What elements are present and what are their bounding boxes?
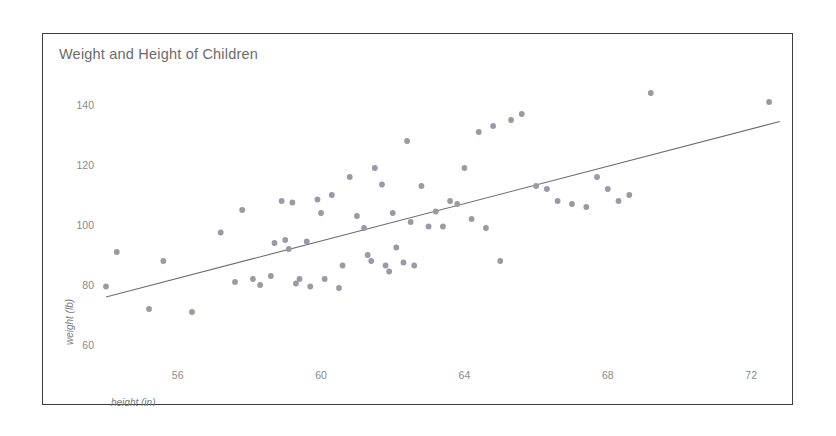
- data-point: [146, 306, 152, 312]
- data-point: [361, 225, 367, 231]
- y-tick-label: 100: [76, 219, 94, 231]
- x-axis-ticks: 5660646872: [172, 369, 757, 381]
- data-point: [555, 198, 561, 204]
- data-point: [286, 246, 292, 252]
- data-point: [272, 240, 278, 246]
- data-point: [533, 183, 539, 189]
- data-point: [218, 230, 224, 236]
- data-point: [440, 224, 446, 230]
- data-point: [569, 201, 575, 207]
- data-point: [616, 198, 622, 204]
- data-point: [368, 258, 374, 264]
- data-point: [279, 198, 285, 204]
- data-point: [372, 165, 378, 171]
- data-point: [393, 245, 399, 251]
- data-point: [315, 197, 321, 203]
- data-point: [401, 260, 407, 266]
- data-point: [340, 263, 346, 269]
- data-point: [386, 269, 392, 275]
- data-point: [282, 237, 288, 243]
- data-point: [379, 182, 385, 188]
- data-point: [483, 225, 489, 231]
- data-point: [347, 174, 353, 180]
- y-tick-label: 80: [82, 279, 94, 291]
- y-tick-label: 60: [82, 339, 94, 351]
- data-point: [354, 213, 360, 219]
- regression-trend-line: [106, 122, 780, 298]
- data-points-group: [103, 90, 772, 315]
- data-point: [383, 263, 389, 269]
- data-point: [766, 99, 772, 105]
- data-point: [594, 174, 600, 180]
- data-point: [390, 210, 396, 216]
- y-tick-label: 140: [76, 99, 94, 111]
- data-point: [454, 201, 460, 207]
- data-point: [408, 219, 414, 225]
- data-point: [160, 258, 166, 264]
- data-point: [583, 204, 589, 210]
- data-point: [447, 198, 453, 204]
- data-point: [250, 276, 256, 282]
- data-point: [544, 186, 550, 192]
- y-axis-title: weight (lb): [64, 299, 75, 345]
- x-tick-label: 56: [172, 369, 184, 381]
- data-point: [476, 129, 482, 135]
- data-point: [297, 276, 303, 282]
- data-point: [426, 224, 432, 230]
- data-point: [268, 273, 274, 279]
- data-point: [433, 209, 439, 215]
- scatter-plot: 6080100120140 5660646872 weight (lb) hei…: [43, 34, 794, 406]
- data-point: [257, 282, 263, 288]
- data-point: [490, 123, 496, 129]
- data-point: [508, 117, 514, 123]
- data-point: [329, 192, 335, 198]
- data-point: [232, 279, 238, 285]
- data-point: [304, 239, 310, 245]
- data-point: [365, 252, 371, 258]
- chart-frame: Weight and Height of Children 6080100120…: [42, 33, 793, 405]
- data-point: [189, 309, 195, 315]
- data-point: [293, 281, 299, 287]
- x-tick-label: 64: [459, 369, 471, 381]
- data-point: [626, 192, 632, 198]
- y-tick-label: 120: [76, 159, 94, 171]
- data-point: [404, 138, 410, 144]
- data-point: [103, 284, 109, 290]
- data-point: [239, 207, 245, 213]
- data-point: [497, 258, 503, 264]
- x-tick-label: 72: [745, 369, 757, 381]
- data-point: [519, 111, 525, 117]
- data-point: [411, 263, 417, 269]
- data-point: [114, 249, 120, 255]
- data-point: [318, 210, 324, 216]
- data-point: [605, 186, 611, 192]
- data-point: [419, 183, 425, 189]
- data-point: [469, 216, 475, 222]
- data-point: [289, 200, 295, 206]
- x-axis-title: height (in): [111, 397, 155, 406]
- data-point: [462, 165, 468, 171]
- x-tick-label: 60: [315, 369, 327, 381]
- data-point: [648, 90, 654, 96]
- y-axis-ticks: 6080100120140: [76, 99, 94, 351]
- data-point: [322, 276, 328, 282]
- data-point: [336, 285, 342, 291]
- data-point: [307, 284, 313, 290]
- x-tick-label: 68: [602, 369, 614, 381]
